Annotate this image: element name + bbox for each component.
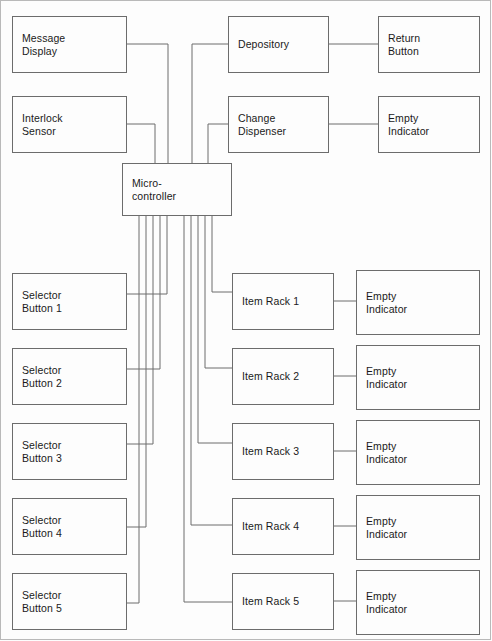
block-empty-indicator-3[interactable]: Empty Indicator [356,420,480,485]
block-return-button[interactable]: Return Button [378,16,480,73]
block-label-item-rack-2: Item Rack 2 [242,370,299,384]
block-label-selector-button-5: Selector Button 5 [22,588,62,615]
block-label-empty-indicator-4: Empty Indicator [366,514,407,541]
block-label-empty-indicator-2: Empty Indicator [366,364,407,391]
block-empty-indicator-0[interactable]: Empty Indicator [378,96,480,153]
block-label-item-rack-3: Item Rack 3 [242,445,299,459]
block-label-item-rack-4: Item Rack 4 [242,520,299,534]
block-label-empty-indicator-5: Empty Indicator [366,589,407,616]
block-selector-button-3[interactable]: Selector Button 3 [12,423,127,480]
block-change-dispenser[interactable]: Change Dispenser [228,96,329,153]
block-empty-indicator-4[interactable]: Empty Indicator [356,495,480,560]
block-selector-button-2[interactable]: Selector Button 2 [12,348,127,405]
block-label-empty-indicator-3: Empty Indicator [366,439,407,466]
block-depository[interactable]: Depository [228,16,329,73]
block-label-depository: Depository [238,38,289,52]
block-label-selector-button-4: Selector Button 4 [22,513,62,540]
block-label-selector-button-3: Selector Button 3 [22,438,62,465]
block-label-selector-button-2: Selector Button 2 [22,363,62,390]
block-label-empty-indicator-1: Empty Indicator [366,289,407,316]
block-empty-indicator-2[interactable]: Empty Indicator [356,345,480,410]
block-message-display[interactable]: Message Display [12,16,127,73]
block-label-change-dispenser: Change Dispenser [238,111,286,138]
block-item-rack-5[interactable]: Item Rack 5 [232,573,334,630]
block-label-microcontroller: Micro- controller [132,176,176,203]
block-item-rack-2[interactable]: Item Rack 2 [232,348,334,405]
block-microcontroller[interactable]: Micro- controller [122,163,232,216]
block-label-message-display: Message Display [22,31,65,58]
block-item-rack-4[interactable]: Item Rack 4 [232,498,334,555]
block-selector-button-1[interactable]: Selector Button 1 [12,273,127,330]
block-selector-button-4[interactable]: Selector Button 4 [12,498,127,555]
block-item-rack-1[interactable]: Item Rack 1 [232,273,334,330]
block-interlock-sensor[interactable]: Interlock Sensor [12,96,127,153]
block-label-interlock-sensor: Interlock Sensor [22,111,63,138]
block-label-item-rack-5: Item Rack 5 [242,595,299,609]
block-empty-indicator-5[interactable]: Empty Indicator [356,570,480,635]
block-label-empty-indicator-0: Empty Indicator [388,111,429,138]
block-empty-indicator-1[interactable]: Empty Indicator [356,270,480,335]
block-label-return-button: Return Button [388,31,420,58]
block-label-selector-button-1: Selector Button 1 [22,288,62,315]
diagram-canvas: Message DisplayInterlock SensorMicro- co… [0,0,492,641]
block-item-rack-3[interactable]: Item Rack 3 [232,423,334,480]
block-label-item-rack-1: Item Rack 1 [242,295,299,309]
block-selector-button-5[interactable]: Selector Button 5 [12,573,127,630]
